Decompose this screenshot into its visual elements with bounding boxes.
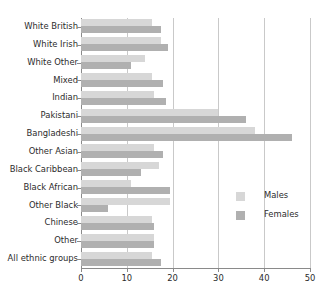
- x-tick-mark: [81, 268, 82, 272]
- bar-females: [81, 62, 131, 69]
- bar-females: [81, 134, 292, 141]
- bar-males: [81, 37, 161, 44]
- bar-group: [81, 54, 310, 72]
- bar-group: [81, 36, 310, 54]
- bar-males: [81, 127, 255, 134]
- x-tick-label: 10: [115, 273, 139, 283]
- bar-group: [81, 161, 310, 179]
- category-label: Other Asian: [0, 147, 78, 156]
- category-label: Pakistani: [0, 111, 78, 120]
- bar-males: [81, 198, 170, 205]
- x-tick-label: 40: [252, 273, 276, 283]
- bar-males: [81, 216, 152, 223]
- category-label: White Irish: [0, 40, 78, 49]
- bar-males: [81, 109, 218, 116]
- bar-females: [81, 223, 154, 230]
- gridline-50: [310, 18, 311, 268]
- bar-males: [81, 73, 152, 80]
- bar-males: [81, 162, 159, 169]
- category-label: Other: [0, 236, 78, 245]
- bar-males: [81, 91, 154, 98]
- legend-swatch-females: [236, 211, 245, 220]
- bar-females: [81, 98, 166, 105]
- bar-males: [81, 19, 152, 26]
- bar-males: [81, 252, 152, 259]
- bar-males: [81, 144, 154, 151]
- bar-chart: White BritishWhite IrishWhite OtherMixed…: [0, 0, 326, 285]
- bar-group: [81, 72, 310, 90]
- category-label: White British: [0, 22, 78, 31]
- bar-females: [81, 187, 170, 194]
- category-label: Chinese: [0, 218, 78, 227]
- category-label: Bangladeshi: [0, 129, 78, 138]
- bar-females: [81, 44, 168, 51]
- bar-females: [81, 169, 141, 176]
- bar-males: [81, 180, 131, 187]
- legend-swatch-males: [236, 192, 245, 201]
- bar-females: [81, 116, 246, 123]
- bar-males: [81, 234, 154, 241]
- category-label: Mixed: [0, 76, 78, 85]
- bar-group: [81, 250, 310, 268]
- bar-group: [81, 125, 310, 143]
- bar-group: [81, 18, 310, 36]
- plot-area: [81, 18, 310, 268]
- x-tick-mark: [218, 268, 219, 272]
- bar-group: [81, 89, 310, 107]
- category-label: Indian: [0, 93, 78, 102]
- category-label: Black African: [0, 183, 78, 192]
- x-tick-mark: [127, 268, 128, 272]
- x-tick-label: 0: [69, 273, 93, 283]
- category-label: All ethnic groups: [0, 254, 78, 263]
- bar-group: [81, 232, 310, 250]
- category-label: Black Caribbean: [0, 165, 78, 174]
- x-tick-label: 30: [206, 273, 230, 283]
- x-tick-mark: [173, 268, 174, 272]
- legend-entry: Males: [236, 190, 322, 209]
- bar-females: [81, 80, 163, 87]
- x-tick-mark: [310, 268, 311, 272]
- bar-females: [81, 205, 108, 212]
- bar-group: [81, 143, 310, 161]
- x-tick-label: 50: [298, 273, 322, 283]
- legend-label: Females: [264, 209, 299, 220]
- legend-label: Males: [264, 190, 288, 201]
- x-axis-line: [81, 268, 311, 269]
- category-label: Other Black: [0, 201, 78, 210]
- bar-females: [81, 151, 163, 158]
- x-tick-mark: [264, 268, 265, 272]
- x-tick-label: 20: [161, 273, 185, 283]
- bar-group: [81, 107, 310, 125]
- chart-legend: MalesFemales: [236, 190, 322, 228]
- category-axis-labels: White BritishWhite IrishWhite OtherMixed…: [0, 18, 78, 268]
- legend-entry: Females: [236, 209, 322, 228]
- category-label: White Other: [0, 58, 78, 67]
- bar-females: [81, 259, 161, 266]
- bar-females: [81, 241, 154, 248]
- bar-females: [81, 26, 161, 33]
- bar-males: [81, 55, 145, 62]
